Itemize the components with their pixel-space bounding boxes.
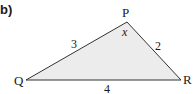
side-pr-label: 2 bbox=[155, 39, 161, 53]
side-pq-label: 3 bbox=[71, 37, 77, 51]
triangle-diagram: P Q R 3 2 4 x bbox=[0, 0, 196, 94]
vertex-p-label: P bbox=[122, 5, 129, 20]
vertex-r-label: R bbox=[183, 72, 192, 87]
vertex-q-label: Q bbox=[14, 73, 24, 88]
angle-p-label: x bbox=[121, 25, 128, 39]
side-qr-label: 4 bbox=[104, 82, 110, 94]
